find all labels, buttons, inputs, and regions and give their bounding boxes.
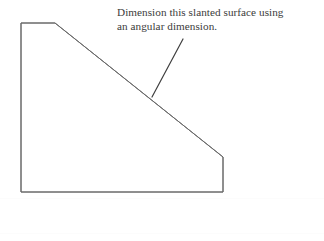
technical-drawing-svg [0,0,324,241]
annotation-line-1: Dimension this slanted surface using [117,6,317,20]
annotation-line-2: an angular dimension. [117,20,317,34]
figure-canvas: Dimension this slanted surface using an … [0,0,324,241]
annotation-note: Dimension this slanted surface using an … [117,6,317,33]
scan-artifact-band [0,198,324,199]
scan-artifact-band [0,233,324,234]
